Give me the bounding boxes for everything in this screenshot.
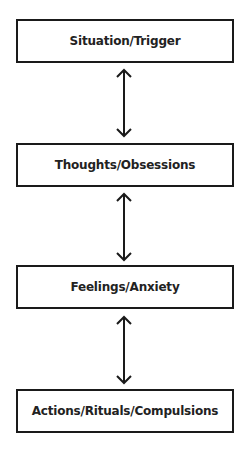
node-label: Situation/Trigger — [70, 34, 181, 48]
node-situation-trigger: Situation/Trigger — [16, 19, 234, 63]
bidirectional-arrow-icon — [114, 315, 134, 385]
node-thoughts-obsessions: Thoughts/Obsessions — [16, 143, 234, 187]
node-label: Actions/Rituals/Compulsions — [32, 404, 219, 418]
node-actions-rituals-compulsions: Actions/Rituals/Compulsions — [16, 389, 234, 433]
node-feelings-anxiety: Feelings/Anxiety — [16, 265, 234, 309]
bidirectional-arrow-icon — [114, 192, 134, 262]
node-label: Feelings/Anxiety — [70, 280, 179, 294]
bidirectional-arrow-icon — [114, 68, 134, 138]
node-label: Thoughts/Obsessions — [55, 158, 196, 172]
